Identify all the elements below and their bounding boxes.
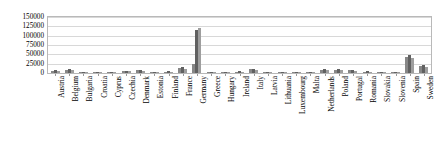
x-tick-label: Spain — [413, 76, 421, 136]
y-tick-label: 50000 — [0, 50, 44, 58]
x-tick-mark — [126, 74, 127, 76]
bar-group — [332, 17, 346, 73]
bar — [298, 72, 301, 73]
x-tick-mark — [410, 74, 411, 76]
bar-group — [119, 17, 133, 73]
bar-group — [403, 17, 417, 73]
x-tick-mark — [339, 74, 340, 76]
bar-group — [176, 17, 190, 73]
y-tick-label: 150000 — [0, 13, 44, 21]
y-tick-label: 0 — [0, 69, 44, 77]
bar-group — [147, 17, 161, 73]
x-tick-mark — [169, 74, 170, 76]
bar-group — [232, 17, 246, 73]
bar-group — [133, 17, 147, 73]
bar — [85, 72, 88, 73]
x-tick-label: Latvia — [271, 76, 279, 136]
x-tick-mark — [197, 74, 198, 76]
bar-group — [275, 17, 289, 73]
bar — [397, 72, 400, 73]
x-tick-mark — [396, 74, 397, 76]
bar-group — [161, 17, 175, 73]
x-tick-label: Netherlands — [328, 76, 336, 136]
x-tick-mark — [353, 74, 354, 76]
x-tick-label: Bulgaria — [86, 76, 94, 136]
bar — [411, 58, 414, 73]
bar-group — [62, 17, 76, 73]
x-tick-mark — [55, 74, 56, 76]
bar — [269, 72, 272, 73]
bar-group — [374, 17, 388, 73]
x-tick-label: France — [186, 76, 194, 136]
x-tick-mark — [367, 74, 368, 76]
x-tick-label: Sweden — [427, 76, 435, 136]
x-tick-mark — [112, 74, 113, 76]
bar — [369, 72, 372, 73]
x-tick-mark — [282, 74, 283, 76]
bar — [326, 70, 329, 73]
x-tick-mark — [325, 74, 326, 76]
bar — [113, 72, 116, 73]
x-tick-label: Czechia — [129, 76, 137, 136]
x-tick-mark — [211, 74, 212, 76]
bar — [128, 71, 131, 73]
bar — [99, 72, 102, 73]
x-tick-mark — [268, 74, 269, 76]
x-tick-label: Belgium — [72, 76, 80, 136]
bar-group — [218, 17, 232, 73]
x-tick-label: Malta — [313, 76, 321, 136]
x-tick-mark — [254, 74, 255, 76]
x-tick-label: Lithuania — [285, 76, 293, 136]
x-tick-label: Cyprus — [115, 76, 123, 136]
bar-group — [289, 17, 303, 73]
x-tick-label: Romania — [370, 76, 378, 136]
bar-group — [388, 17, 402, 73]
bar — [340, 70, 343, 73]
bar — [284, 72, 287, 73]
bar — [142, 71, 145, 73]
bar — [198, 28, 201, 73]
bar — [170, 72, 173, 73]
x-tick-mark — [240, 74, 241, 76]
bar-group — [417, 17, 431, 73]
bar — [57, 71, 60, 73]
bar-group — [48, 17, 62, 73]
bar — [241, 72, 244, 73]
y-tick-label: 100000 — [0, 32, 44, 40]
bar-group — [318, 17, 332, 73]
y-tick-label: 25000 — [0, 60, 44, 68]
x-tick-label: Poland — [342, 76, 350, 136]
bar-group — [303, 17, 317, 73]
x-tick-label: Germany — [200, 76, 208, 136]
bar-chart: 0250005000075000100000125000150000 Austr… — [0, 0, 441, 164]
bar-group — [261, 17, 275, 73]
x-tick-label: Luxembourg — [299, 76, 307, 136]
x-tick-label: Estonia — [157, 76, 165, 136]
bar-group — [346, 17, 360, 73]
x-tick-mark — [424, 74, 425, 76]
bar-group — [247, 17, 261, 73]
bar-group — [76, 17, 90, 73]
bar — [213, 72, 216, 73]
bar — [383, 72, 386, 73]
bar-group — [190, 17, 204, 73]
bar — [354, 71, 357, 73]
x-tick-label: Finland — [172, 76, 180, 136]
x-tick-mark — [183, 74, 184, 76]
x-tick-label: Denmark — [143, 76, 151, 136]
bar-group — [91, 17, 105, 73]
x-axis: AustriaBelgiumBulgariaCroatiaCyprusCzech… — [48, 76, 431, 164]
bar-group — [360, 17, 374, 73]
bars-layer — [48, 17, 431, 73]
y-axis: 0250005000075000100000125000150000 — [0, 11, 44, 79]
bar — [312, 72, 315, 73]
y-tick-label: 75000 — [0, 41, 44, 49]
x-tick-label: Portugal — [356, 76, 364, 136]
x-tick-label: Slovakia — [384, 76, 392, 136]
bar — [255, 70, 258, 73]
bar — [71, 70, 74, 73]
x-tick-mark — [98, 74, 99, 76]
x-tick-label: Ireland — [243, 76, 251, 136]
x-tick-label: Austria — [58, 76, 66, 136]
x-tick-label: Greece — [214, 76, 222, 136]
